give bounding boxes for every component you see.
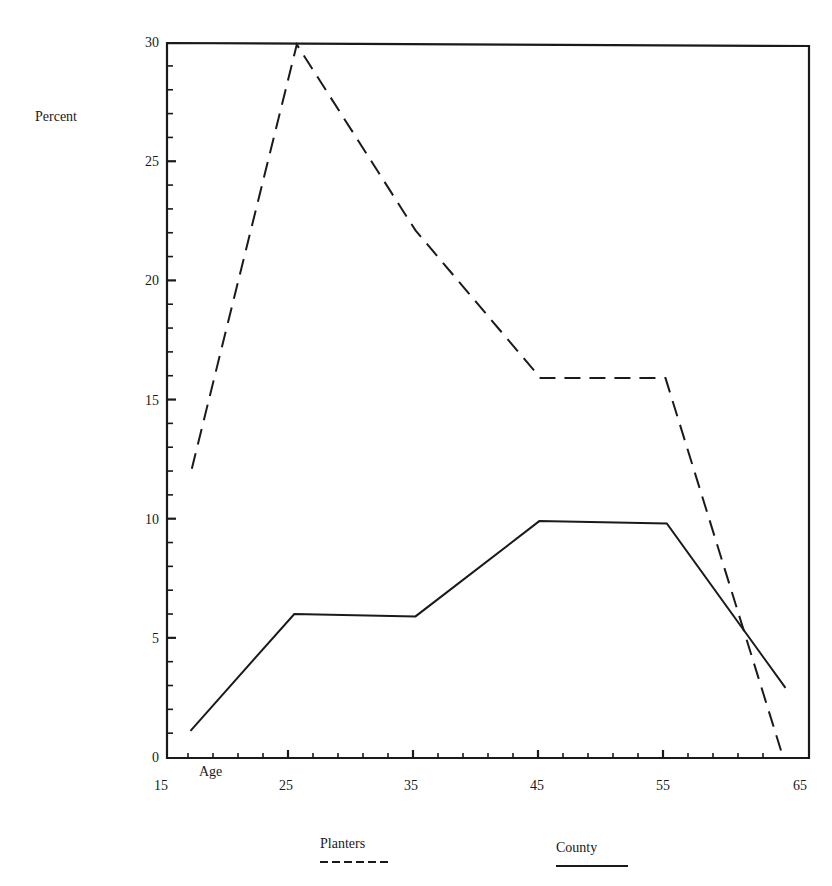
plot-frame [167,43,809,758]
y-tick-label: 25 [145,154,159,169]
y-tick-label: 20 [145,273,159,288]
axes-frame [167,43,809,758]
y-tick-label: 30 [145,35,159,50]
x-tick-label: 45 [530,778,544,793]
y-tick-label: 5 [152,631,159,646]
series-line-planters [192,45,783,758]
x-tick-label: 65 [793,778,807,793]
legend-label-county: County [556,840,597,855]
series-lines [191,45,786,758]
y-tick-label: 0 [152,750,159,765]
y-axis-label: Percent [35,109,77,124]
x-tick-label: 15 [154,778,168,793]
x-tick-label: 55 [656,778,670,793]
line-chart: 051015202530 152535455565 Percent Age Pl… [0,0,832,886]
y-axis-ticks: 051015202530 [145,35,176,765]
x-tick-label: 25 [279,778,293,793]
y-tick-label: 15 [145,393,159,408]
legend-label-planters: Planters [320,836,365,851]
x-axis-label: Age [199,764,222,779]
x-axis-ticks: 152535455565 [154,750,807,793]
y-tick-label: 10 [145,512,159,527]
series-line-county [191,521,786,731]
legend: Planters County [320,836,628,866]
x-tick-label: 35 [404,778,418,793]
